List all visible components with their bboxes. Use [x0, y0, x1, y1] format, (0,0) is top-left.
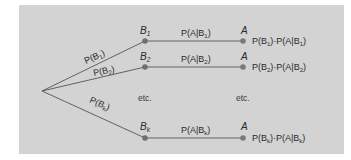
node-bk-label: Bk [140, 121, 151, 133]
product-b2-label: P(B2)·P(A|B2) [252, 62, 306, 73]
node-a2-label: A [240, 51, 248, 62]
cond-b2-label: P(A|B2) [181, 54, 211, 65]
product-b1-label: P(B1)·P(A|B1) [252, 36, 306, 47]
node-b1 [142, 38, 148, 44]
node-b1-label: B1 [140, 25, 151, 37]
node-b2-label: B2 [140, 51, 151, 63]
prob-bk-label: P(Bk) [88, 95, 112, 114]
node-a1-label: A [240, 25, 248, 36]
product-bk-label: P(Bk)·P(A|Bk) [252, 133, 305, 144]
cond-b1-label: P(A|B1) [181, 28, 211, 39]
node-ak [240, 135, 246, 141]
ellipsis-right: etc. [236, 93, 250, 103]
node-ak-label: A [240, 121, 248, 132]
ellipsis-left: etc. [138, 93, 152, 103]
probability-tree-diagram: B1 B2 Bk A A A P(B1) P(B2) P(Bk) P(A|B1)… [0, 0, 351, 160]
edge-root-b1 [42, 41, 145, 91]
node-a2 [240, 64, 246, 70]
node-bk [142, 135, 148, 141]
node-b2 [142, 64, 148, 70]
prob-b1-label: P(B1) [83, 48, 107, 67]
node-a1 [240, 38, 246, 44]
cond-bk-label: P(A|Bk) [181, 125, 210, 136]
